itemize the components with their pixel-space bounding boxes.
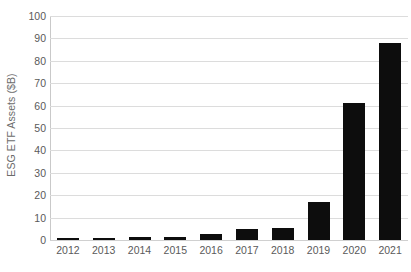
y-tick-label: 70: [20, 78, 46, 89]
y-tick-label: 20: [20, 190, 46, 201]
y-tick-label: 90: [20, 33, 46, 44]
bar: [93, 238, 115, 240]
y-axis-tick-labels: 1009080706050403020100: [20, 16, 46, 240]
y-tick-label: 10: [20, 212, 46, 223]
x-tick-label: 2014: [122, 244, 158, 257]
bar-chart: ESG ETF Assets ($B) 10090807060504030201…: [0, 0, 411, 272]
y-tick-label: 40: [20, 145, 46, 156]
bar: [236, 229, 258, 240]
bar: [379, 43, 401, 240]
y-tick-label: 30: [20, 168, 46, 179]
y-tick-label: 50: [20, 123, 46, 134]
plot-area: [50, 16, 408, 240]
y-tick-label: 100: [20, 11, 46, 22]
x-tick-label: 2016: [193, 244, 229, 257]
bar: [200, 234, 222, 240]
x-tick-label: 2013: [86, 244, 122, 257]
bar: [129, 237, 151, 240]
x-axis-tick-labels: 2012201320142015201620172018201920202021: [50, 244, 408, 264]
bar: [57, 238, 79, 240]
x-tick-label: 2020: [336, 244, 372, 257]
bar: [272, 228, 294, 240]
bar: [343, 103, 365, 240]
y-tick-label: 60: [20, 100, 46, 111]
bar-series: [50, 16, 408, 240]
gridline: [50, 240, 408, 241]
x-tick-label: 2021: [372, 244, 408, 257]
y-axis-title: ESG ETF Assets ($B): [0, 0, 22, 250]
x-tick-label: 2015: [157, 244, 193, 257]
y-tick-label: 80: [20, 56, 46, 67]
x-tick-label: 2012: [50, 244, 86, 257]
x-tick-label: 2019: [301, 244, 337, 257]
y-axis-title-text: ESG ETF Assets ($B): [5, 73, 17, 176]
y-tick-label: 0: [20, 235, 46, 246]
bar: [308, 202, 330, 240]
x-tick-label: 2018: [265, 244, 301, 257]
x-tick-label: 2017: [229, 244, 265, 257]
bar: [164, 237, 186, 240]
